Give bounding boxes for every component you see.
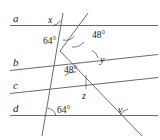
angle-label-y: y	[99, 54, 105, 65]
line-label-d: d	[13, 102, 19, 114]
angle-arc-y	[92, 51, 98, 59]
line-label-a: a	[13, 12, 19, 24]
angle-arc-48-upper	[72, 42, 84, 47]
angle-label-z: z	[81, 90, 86, 101]
transversal-right-upper	[60, 13, 88, 51]
angle-label-64-bottom: 64°	[57, 105, 71, 115]
angle-arc-x	[52, 21, 60, 26]
line-label-b: b	[13, 56, 19, 68]
angle-label-64-upper: 64°	[43, 36, 57, 46]
parallel-line-b	[10, 55, 158, 71]
angle-label-x: x	[47, 14, 53, 25]
angle-arc-64-bottom	[48, 108, 57, 116]
angle-label-48-upper: 48°	[92, 30, 106, 40]
angle-label-v: v	[118, 104, 123, 115]
line-label-c: c	[13, 79, 18, 91]
geometry-canvas: a b c d x 64° 48° y 48° z 64° v	[0, 0, 160, 140]
transversal-left	[42, 13, 63, 136]
geometry-figure: a b c d x 64° 48° y 48° z 64° v	[0, 0, 160, 140]
angle-arc-64-upper	[63, 36, 75, 40]
angle-label-48-middle: 48°	[64, 65, 78, 75]
